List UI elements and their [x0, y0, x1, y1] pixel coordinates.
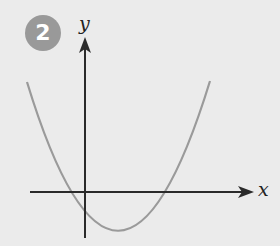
problem-number-badge: 2 [25, 15, 61, 51]
parabola-curve [27, 81, 210, 231]
x-axis-label: x [258, 178, 269, 200]
y-axis-label: y [79, 12, 90, 34]
